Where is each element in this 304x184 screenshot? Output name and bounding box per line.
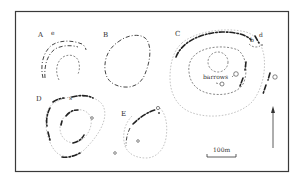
site-e-outer-enclosure (124, 108, 167, 158)
site-d: D s (36, 94, 105, 157)
site-d-inner-enclosure (60, 110, 91, 143)
site-c-barrows-annotation: barrows (203, 73, 228, 80)
site-a-sublabel-e: e (51, 29, 55, 36)
site-e-feature-ne-2 (158, 112, 160, 114)
site-e-rampart-south (126, 128, 130, 146)
site-c-label: C (175, 30, 180, 38)
site-c-feature-d (261, 44, 263, 46)
site-c-barrow-1 (234, 72, 239, 77)
site-e-feature-west (114, 152, 117, 155)
site-c-main-rampart (176, 32, 251, 57)
site-e-label: E (121, 110, 126, 118)
map-frame (16, 12, 289, 172)
site-a: A e (37, 29, 86, 80)
site-c-barrows-leader-2 (216, 83, 220, 84)
site-b-label: B (103, 31, 108, 39)
site-d-outer-enclosure (46, 96, 105, 157)
site-e-rampart (133, 110, 155, 124)
site-a-label: A (37, 31, 44, 39)
site-c-east-rampart (263, 73, 270, 94)
site-e-feature-ne-1 (156, 106, 159, 109)
scale-bar-line (207, 154, 236, 157)
site-e-feature-centre (137, 140, 140, 143)
site-c-middle-rampart (189, 47, 246, 95)
site-b: B (103, 31, 150, 87)
scale-bar: 100m (207, 146, 236, 157)
site-a-middle-rampart (45, 46, 78, 78)
site-c: C b d barrows (170, 30, 277, 116)
site-c-sublabel-d: d (259, 31, 263, 38)
north-arrow-head-icon (271, 106, 275, 113)
site-c-barrow-2 (220, 82, 224, 86)
site-c-annex-b (249, 44, 260, 47)
site-a-outer-rampart (42, 41, 86, 78)
site-e: E (114, 106, 167, 158)
site-c-barrows-leader-1 (232, 75, 234, 77)
site-d-label: D (36, 95, 42, 103)
site-b-rampart (105, 35, 150, 87)
site-d-feature (91, 117, 94, 120)
site-a-inner-rampart (57, 55, 80, 80)
site-c-inner-enclosure (208, 52, 228, 72)
site-c-east-barrow (273, 75, 277, 79)
scale-bar-label: 100m (213, 146, 230, 153)
site-d-inner-rampart (61, 110, 84, 143)
site-plan: A e B C b d barrows D (0, 0, 304, 184)
north-arrow (271, 106, 275, 148)
site-c-middle-rampart-heavy (240, 62, 246, 86)
